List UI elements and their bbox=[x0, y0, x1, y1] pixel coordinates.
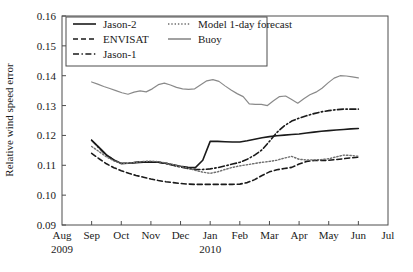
y-tick-label: 0.13 bbox=[37, 100, 57, 112]
chart-legend: Jason-2Model 1-day forecastENVISATBuoyJa… bbox=[66, 17, 292, 66]
y-tick-label: 0.10 bbox=[37, 189, 57, 201]
x-tick-label: Jan bbox=[203, 229, 218, 241]
x-tick-label: Nov bbox=[141, 229, 160, 241]
chart-container: 0.090.100.110.120.130.140.150.16 AugSepO… bbox=[0, 0, 413, 272]
relative-wind-speed-error-chart: 0.090.100.110.120.130.140.150.16 AugSepO… bbox=[0, 0, 413, 272]
legend-label-buoy: Buoy bbox=[198, 33, 222, 45]
x-tick-label: Jul bbox=[382, 229, 395, 241]
y-tick-label: 0.16 bbox=[37, 10, 57, 22]
legend-label-envisat: ENVISAT bbox=[103, 33, 149, 45]
legend-label-model-1-day-forecast: Model 1-day forecast bbox=[198, 18, 292, 30]
x-tick-label: Oct bbox=[113, 229, 129, 241]
y-tick-label: 0.15 bbox=[37, 40, 57, 52]
x-tick-label: Apr bbox=[291, 229, 308, 241]
x-tick-label: Jun bbox=[351, 229, 367, 241]
y-tick-label: 0.14 bbox=[37, 70, 57, 82]
y-tick-label: 0.12 bbox=[37, 129, 56, 141]
legend-label-jason-2: Jason-2 bbox=[103, 18, 137, 30]
x-axis-year-label: 2009 bbox=[51, 243, 74, 255]
x-tick-label: Sep bbox=[83, 229, 100, 241]
x-tick-label: Feb bbox=[232, 229, 249, 241]
x-tick-label: Dec bbox=[172, 229, 190, 241]
x-tick-label: May bbox=[319, 229, 340, 241]
y-tick-label: 0.11 bbox=[37, 159, 56, 171]
x-tick-label: Aug bbox=[53, 229, 72, 241]
x-axis-year-label: 2010 bbox=[199, 243, 222, 255]
y-axis-title: Relative wind speed error bbox=[3, 63, 15, 177]
legend-label-jason-1: Jason-1 bbox=[103, 48, 137, 60]
x-tick-label: Mar bbox=[260, 229, 279, 241]
